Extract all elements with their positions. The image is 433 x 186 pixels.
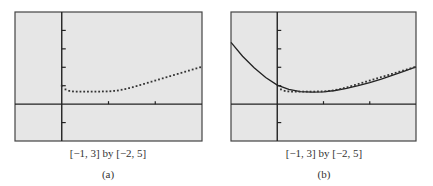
graph-point	[139, 84, 141, 86]
graph-point	[61, 85, 63, 87]
graph-point	[398, 71, 400, 73]
graph-point	[395, 72, 397, 74]
graph-point	[192, 69, 194, 71]
panel-label-b: (b)	[216, 168, 432, 180]
graph-point	[384, 75, 386, 77]
graph-point	[154, 80, 156, 82]
graph-point	[291, 91, 293, 93]
graph-point	[376, 77, 378, 79]
graph-point	[336, 89, 338, 91]
graph-point	[151, 81, 153, 83]
graph-point	[80, 91, 82, 93]
graph-point	[158, 79, 160, 81]
graph-point	[106, 91, 108, 93]
graph-point	[128, 87, 130, 89]
graph-point	[162, 77, 164, 79]
graph-point	[95, 91, 97, 93]
graph-point	[280, 89, 282, 91]
graph-point	[91, 91, 93, 93]
graph-point	[299, 91, 301, 93]
graph-point	[413, 66, 415, 68]
graph-point	[121, 89, 123, 91]
graph-point	[109, 90, 111, 92]
graph-point	[166, 76, 168, 78]
graph-point	[410, 67, 412, 69]
graph-point	[347, 86, 349, 88]
graph-point	[173, 74, 175, 76]
graph-point	[117, 90, 119, 92]
graph-point	[332, 90, 334, 92]
graph-point	[65, 89, 67, 91]
graph-point	[317, 91, 319, 93]
graph-point	[181, 72, 183, 74]
graph-point	[184, 71, 186, 73]
graph-point	[406, 69, 408, 71]
graph-panel-a: [−1, 3] by [−2, 5] (a)	[0, 0, 216, 186]
graph-point	[72, 91, 74, 93]
graph-point	[195, 67, 197, 69]
graph-point	[361, 82, 363, 84]
graph-point	[136, 85, 138, 87]
panel-label-a: (a)	[0, 168, 216, 180]
window-caption-a: [−1, 3] by [−2, 5]	[0, 147, 216, 159]
graph-point	[343, 87, 345, 89]
graph-point	[302, 91, 304, 93]
graph-point	[295, 91, 297, 93]
graph-point	[98, 91, 100, 93]
graph-point	[350, 85, 352, 87]
graph-point	[287, 91, 289, 93]
graph-point	[339, 88, 341, 90]
graph-point	[310, 91, 312, 93]
graph-point	[169, 75, 171, 77]
graph-point	[147, 82, 149, 84]
graph-point	[328, 90, 330, 92]
graph-point	[402, 70, 404, 72]
graph-point	[143, 83, 145, 85]
graph-point	[76, 91, 78, 93]
graph-point	[83, 91, 85, 93]
graph-point	[324, 90, 326, 92]
window-caption-b: [−1, 3] by [−2, 5]	[216, 147, 432, 159]
graph-point	[387, 74, 389, 76]
screen-frame	[15, 12, 202, 141]
graph-point	[132, 86, 134, 88]
graph-point	[284, 90, 286, 92]
graph-point	[321, 91, 323, 93]
graph-point	[188, 70, 190, 72]
graph-point	[177, 73, 179, 75]
graph-point	[306, 91, 308, 93]
graph-point	[369, 80, 371, 82]
graph-point	[380, 76, 382, 78]
graph-panel-b: [−1, 3] by [−2, 5] (b)	[216, 0, 432, 186]
graph-point	[124, 88, 126, 90]
graph-point	[199, 66, 201, 68]
graph-point	[313, 91, 315, 93]
graph-point	[68, 90, 70, 92]
graph-point	[391, 73, 393, 75]
graph-point	[365, 81, 367, 83]
graph-point	[358, 83, 360, 85]
graph-point	[113, 90, 115, 92]
graph-point	[354, 84, 356, 86]
graph-point	[102, 91, 104, 93]
graph-point	[87, 91, 89, 93]
graph-point	[373, 79, 375, 81]
